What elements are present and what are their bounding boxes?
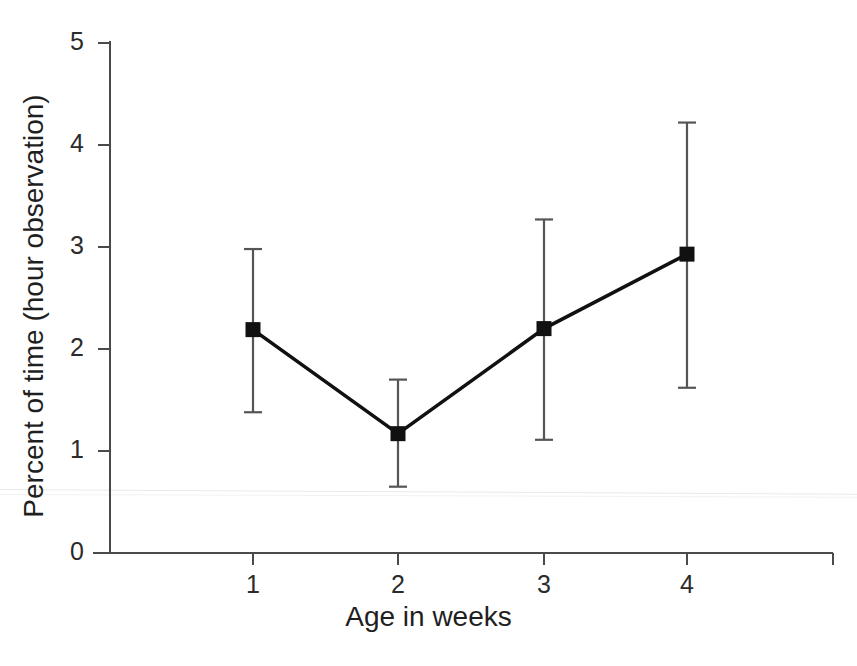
x-axis-title: Age in weeks [0,601,857,633]
line-chart-plot [0,0,857,666]
data-series-line [253,254,687,434]
axis-lines [93,41,833,565]
error-bars-group [244,123,696,487]
x-axis-ticks [253,553,687,565]
data-point-marker [537,321,552,336]
data-point-marker [246,322,261,337]
x-axis-tick-label: 4 [667,570,707,599]
data-point-markers [246,247,695,442]
y-axis-title: Percent of time (hour observation) [18,6,50,606]
y-axis-tick-label: 2 [52,333,84,362]
x-axis-tick-label: 1 [233,570,273,599]
y-axis-tick-label: 4 [52,129,84,158]
y-axis-tick-label: 3 [52,231,84,260]
chart-page: 012345 1234 Age in weeks Percent of time… [0,0,857,666]
y-axis-tick-label: 0 [52,537,84,566]
y-axis-ticks [98,43,110,553]
data-point-marker [680,247,695,262]
y-axis-tick-label: 5 [52,27,84,56]
x-axis-tick-label: 2 [378,570,418,599]
x-axis-tick-label: 3 [524,570,564,599]
y-axis-tick-label: 1 [52,435,84,464]
data-point-marker [391,426,406,441]
